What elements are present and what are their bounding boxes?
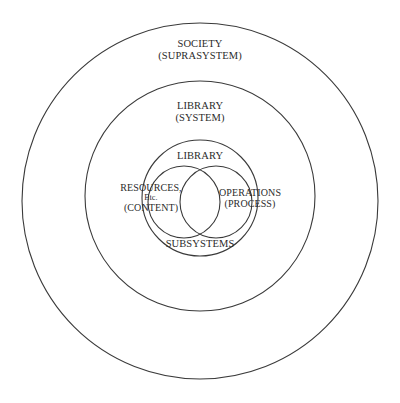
venn-right-label: OPERATIONS (PROCESS) bbox=[208, 187, 292, 209]
venn-left-label-line1: RESOURCES, bbox=[108, 182, 194, 193]
inner-ring-top-label-text: LIBRARY bbox=[0, 150, 400, 162]
venn-left-label: RESOURCES, Etc. (CONTENT) bbox=[108, 182, 194, 214]
venn-right-label-line2: (PROCESS) bbox=[208, 198, 292, 209]
inner-ring-bottom-label: SUBSYSTEMS bbox=[0, 238, 400, 250]
venn-left-label-line2: Etc. bbox=[108, 193, 194, 202]
outer-ring-society bbox=[22, 23, 378, 379]
venn-right-label-line1: OPERATIONS bbox=[208, 187, 292, 198]
middle-ring-label: LIBRARY (SYSTEM) bbox=[0, 100, 400, 124]
systems-diagram: SOCIETY (SUPRASYSTEM) LIBRARY (SYSTEM) L… bbox=[0, 0, 400, 403]
inner-ring-bottom-label-text: SUBSYSTEMS bbox=[0, 238, 400, 250]
venn-left-label-line3: (CONTENT) bbox=[108, 202, 194, 213]
outer-ring-label: SOCIETY (SUPRASYSTEM) bbox=[0, 38, 400, 62]
inner-ring-top-label: LIBRARY bbox=[0, 150, 400, 162]
middle-ring-label-line1: LIBRARY bbox=[0, 100, 400, 112]
outer-ring-label-line2: (SUPRASYSTEM) bbox=[0, 50, 400, 62]
outer-ring-label-line1: SOCIETY bbox=[0, 38, 400, 50]
middle-ring-label-line2: (SYSTEM) bbox=[0, 112, 400, 124]
